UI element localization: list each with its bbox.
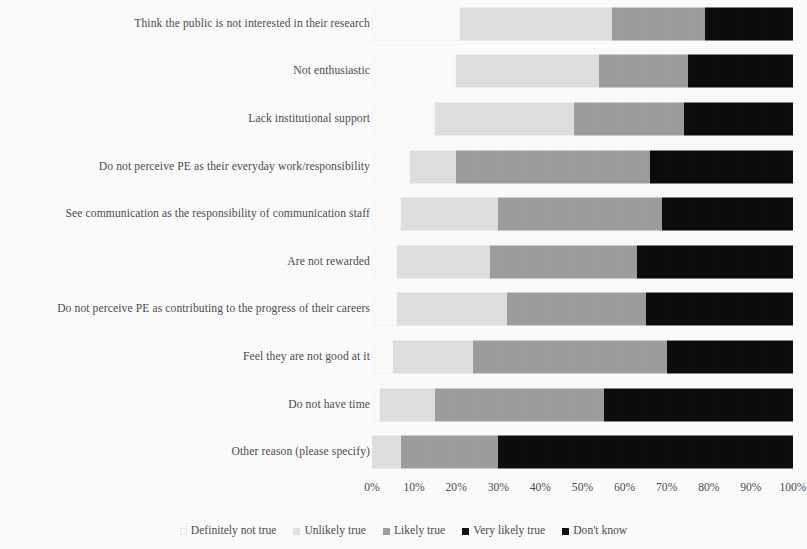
x-tick-label: 10% — [403, 481, 424, 494]
bar-segment-unlikely-true — [460, 7, 612, 40]
bar-segment-definitely-not-true — [372, 55, 456, 88]
bar-segment-likely-true — [574, 102, 683, 135]
bar-track — [372, 388, 793, 421]
bar-segment-likely-true — [599, 55, 687, 88]
bar-row: Not enthusiastic — [0, 48, 807, 96]
plot-area: Think the public is not interested in th… — [0, 0, 807, 478]
bar-row: Do not perceive PE as contributing to th… — [0, 286, 807, 334]
bar-segment-very-likely-true — [498, 436, 793, 469]
bar-segment-likely-true — [507, 293, 646, 326]
bar-row: Are not rewarded — [0, 238, 807, 286]
bar-segment-unlikely-true — [393, 340, 473, 373]
x-tick-label: 100% — [779, 481, 806, 494]
legend-swatch-icon — [562, 528, 569, 535]
bar-segment-definitely-not-true — [372, 102, 435, 135]
stacked-bar-chart: Think the public is not interested in th… — [0, 0, 807, 549]
x-tick-label: 60% — [614, 481, 635, 494]
legend-item[interactable]: Don't know — [562, 525, 627, 537]
x-tick-label: 70% — [656, 481, 677, 494]
x-tick-label: 0% — [364, 481, 379, 494]
category-label: Think the public is not interested in th… — [0, 17, 370, 32]
bar-row: Lack institutional support — [0, 95, 807, 143]
bar-row: Other reason (please specify) — [0, 428, 807, 476]
bar-track — [372, 293, 793, 326]
bar-segment-unlikely-true — [435, 102, 574, 135]
legend-item[interactable]: Definitely not true — [180, 525, 277, 537]
legend-label: Unlikely true — [304, 525, 366, 537]
bar-segment-definitely-not-true — [372, 340, 393, 373]
bar-track — [372, 150, 793, 183]
legend-label: Very likely true — [473, 525, 545, 537]
legend-item[interactable]: Unlikely true — [293, 525, 366, 537]
legend-label: Likely true — [394, 525, 445, 537]
x-tick-label: 30% — [488, 481, 509, 494]
bar-segment-unlikely-true — [380, 388, 435, 421]
legend-swatch-icon — [180, 528, 187, 535]
bar-segment-unlikely-true — [456, 55, 599, 88]
bar-row: Feel they are not good at it — [0, 333, 807, 381]
bar-segment-very-likely-true — [688, 55, 793, 88]
bar-segment-likely-true — [456, 150, 650, 183]
bar-segment-definitely-not-true — [372, 198, 401, 231]
bar-row: See communication as the responsibility … — [0, 190, 807, 238]
x-tick-label: 80% — [698, 481, 719, 494]
legend-item[interactable]: Likely true — [383, 525, 445, 537]
category-label: Do not perceive PE as their everyday wor… — [0, 159, 370, 174]
bar-track — [372, 102, 793, 135]
bar-segment-likely-true — [401, 436, 498, 469]
legend-item[interactable]: Very likely true — [462, 525, 545, 537]
bar-track — [372, 436, 793, 469]
category-label: Lack institutional support — [0, 112, 370, 127]
x-tick-label: 20% — [446, 481, 467, 494]
x-tick-label: 90% — [740, 481, 761, 494]
bar-segment-definitely-not-true — [372, 388, 380, 421]
bar-segment-likely-true — [612, 7, 705, 40]
legend-swatch-icon — [383, 528, 390, 535]
bar-track — [372, 7, 793, 40]
bar-segment-very-likely-true — [662, 198, 793, 231]
category-label: Other reason (please specify) — [0, 445, 370, 460]
bar-segment-likely-true — [498, 198, 662, 231]
bar-segment-definitely-not-true — [372, 293, 397, 326]
bar-segment-very-likely-true — [705, 7, 793, 40]
bar-segment-definitely-not-true — [372, 7, 460, 40]
bar-segment-unlikely-true — [397, 293, 506, 326]
legend-label: Don't know — [573, 525, 627, 537]
bar-row: Do not have time — [0, 381, 807, 429]
chart-legend: Definitely not trueUnlikely trueLikely t… — [0, 518, 807, 544]
bar-segment-likely-true — [435, 388, 603, 421]
bar-track — [372, 55, 793, 88]
legend-label: Definitely not true — [191, 525, 277, 537]
x-tick-label: 50% — [572, 481, 593, 494]
x-axis: 0%10%20%30%40%50%60%70%80%90%100% — [0, 478, 807, 502]
bar-row: Think the public is not interested in th… — [0, 0, 807, 48]
bar-segment-very-likely-true — [667, 340, 793, 373]
category-label: Do not have time — [0, 397, 370, 412]
category-label: Do not perceive PE as contributing to th… — [0, 302, 370, 317]
bar-segment-unlikely-true — [372, 436, 401, 469]
bar-segment-unlikely-true — [401, 198, 498, 231]
bar-segment-likely-true — [473, 340, 667, 373]
bar-segment-very-likely-true — [646, 293, 793, 326]
bar-track — [372, 198, 793, 231]
category-label: Feel they are not good at it — [0, 350, 370, 365]
x-tick-label: 40% — [530, 481, 551, 494]
bar-segment-definitely-not-true — [372, 245, 397, 278]
bar-segment-definitely-not-true — [372, 150, 410, 183]
bar-segment-very-likely-true — [637, 245, 793, 278]
bar-segment-very-likely-true — [650, 150, 793, 183]
category-label: Are not rewarded — [0, 255, 370, 270]
legend-swatch-icon — [293, 528, 300, 535]
bar-track — [372, 245, 793, 278]
bar-segment-unlikely-true — [397, 245, 490, 278]
bar-segment-very-likely-true — [684, 102, 793, 135]
legend-swatch-icon — [462, 528, 469, 535]
bar-segment-very-likely-true — [604, 388, 793, 421]
bar-row: Do not perceive PE as their everyday wor… — [0, 143, 807, 191]
bar-segment-unlikely-true — [410, 150, 456, 183]
category-label: Not enthusiastic — [0, 64, 370, 79]
bar-track — [372, 340, 793, 373]
category-label: See communication as the responsibility … — [0, 207, 370, 222]
bar-segment-likely-true — [490, 245, 637, 278]
